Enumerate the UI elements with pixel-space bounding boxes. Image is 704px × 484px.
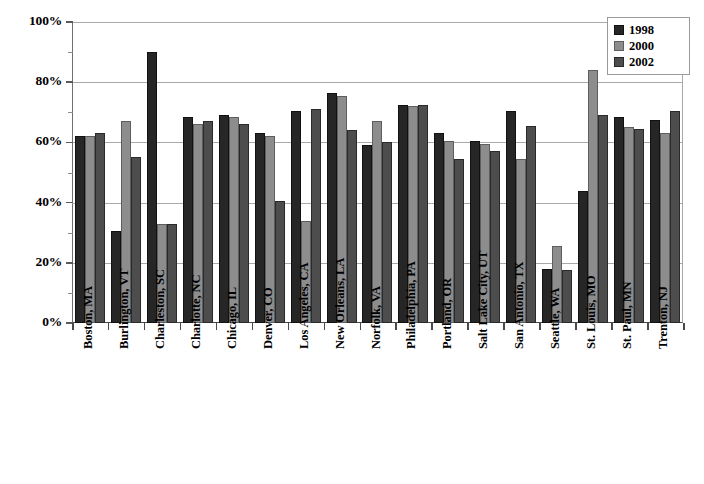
- x-axis-label: Seattle, WA: [548, 288, 563, 349]
- x-tick-mark: [144, 323, 146, 330]
- x-axis-label: San Antonio, TX: [512, 261, 527, 349]
- x-axis-label: Chicago, IL: [225, 287, 240, 349]
- x-axis-label: St. Paul, MN: [620, 281, 635, 349]
- bar-group: [360, 22, 396, 323]
- y-tick-label: 20%: [0, 254, 62, 270]
- x-axis-label: New Orleans, LA: [333, 258, 348, 349]
- bar: [131, 157, 141, 323]
- bar: [311, 109, 321, 323]
- x-tick-mark: [395, 323, 397, 330]
- y-tick-label: 80%: [0, 73, 62, 89]
- bar: [347, 130, 357, 323]
- x-axis-label: Charlotte, NC: [189, 275, 204, 349]
- legend-swatch-2000-icon: [614, 41, 624, 51]
- x-axis-label: Philadelphia, PA: [404, 261, 419, 349]
- chart-legend: 1998 2000 2002: [607, 17, 690, 75]
- bar-group: [252, 22, 288, 323]
- bar: [418, 105, 428, 323]
- y-tick-label: 100%: [0, 13, 62, 29]
- x-axis-label: Trenton, NJ: [656, 286, 671, 349]
- bar: [598, 115, 608, 323]
- x-tick-mark: [216, 323, 218, 330]
- x-tick-mark: [180, 323, 182, 330]
- x-tick-mark: [360, 323, 362, 330]
- bar-group: [216, 22, 252, 323]
- x-axis-label: Norfolk, VA: [369, 286, 384, 349]
- x-tick-mark: [539, 323, 541, 330]
- y-tick-label: 60%: [0, 133, 62, 149]
- bar: [239, 124, 249, 323]
- x-tick-mark: [467, 323, 469, 330]
- bar-group: [539, 22, 575, 323]
- legend-item-1998: 1998: [614, 22, 684, 38]
- bar: [526, 126, 536, 323]
- y-tick-label: 40%: [0, 194, 62, 210]
- bar-chart: 0%20%40%60%80%100% Boston, MABurlington,…: [0, 0, 704, 484]
- x-axis-label: Salt Lake City, UT: [476, 251, 491, 349]
- bar: [562, 270, 572, 323]
- bar: [490, 151, 500, 323]
- x-tick-mark: [575, 323, 577, 330]
- x-axis-label: Los Angeles, CA: [297, 263, 312, 349]
- bar: [454, 159, 464, 323]
- legend-label-1998: 1998: [629, 24, 654, 37]
- y-tick-label: 0%: [0, 314, 62, 330]
- x-tick-mark: [611, 323, 613, 330]
- bar: [670, 111, 680, 323]
- x-tick-mark: [108, 323, 110, 330]
- x-axis-label: St. Louis, MO: [584, 275, 599, 349]
- x-tick-mark: [288, 323, 290, 330]
- bar: [203, 121, 213, 323]
- x-axis-label: Charleston, SC: [153, 269, 168, 349]
- x-axis-label: Boston, MA: [81, 286, 96, 349]
- legend-swatch-2002-icon: [614, 57, 624, 67]
- bar: [634, 129, 644, 323]
- legend-swatch-1998-icon: [614, 25, 624, 35]
- x-axis-label: Burlington, VT: [117, 269, 132, 349]
- legend-item-2002: 2002: [614, 54, 684, 70]
- bar: [95, 133, 105, 323]
- x-axis-label: Denver, CO: [261, 287, 276, 349]
- legend-item-2000: 2000: [614, 38, 684, 54]
- x-tick-mark: [324, 323, 326, 330]
- bar: [167, 224, 177, 323]
- x-tick-mark: [647, 323, 649, 330]
- legend-label-2000: 2000: [629, 40, 654, 53]
- x-tick-mark: [431, 323, 433, 330]
- bar: [275, 201, 285, 323]
- bar-group: [72, 22, 108, 323]
- x-tick-mark: [72, 323, 74, 330]
- x-axis-label: Portland, OR: [440, 278, 455, 349]
- x-tick-mark: [252, 323, 254, 330]
- legend-label-2002: 2002: [629, 56, 654, 69]
- x-tick-mark: [503, 323, 505, 330]
- x-tick-mark: [683, 323, 685, 330]
